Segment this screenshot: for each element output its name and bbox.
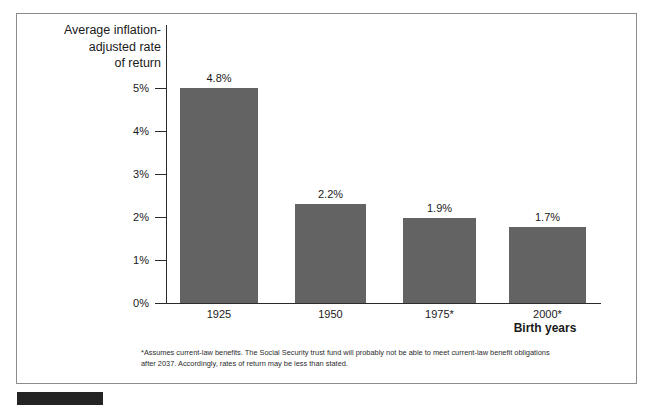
bar-value-2000: 1.7%: [509, 212, 586, 223]
y-tick-label-5: 5%: [95, 83, 149, 94]
y-tick-1: [155, 260, 166, 261]
bar-1975[interactable]: [403, 218, 476, 303]
bar-category-1975: 1975*: [403, 309, 476, 320]
y-tick-0: [155, 303, 166, 304]
bar-value-1950: 2.2%: [295, 189, 366, 200]
y-axis-line: [166, 25, 167, 304]
bar-value-1925: 4.8%: [180, 73, 258, 84]
x-axis-line: [166, 303, 601, 304]
y-tick-label-3: 3%: [95, 169, 149, 180]
bar-value-1975: 1.9%: [403, 203, 476, 214]
y-tick-label-2: 2%: [95, 212, 149, 223]
y-tick-2: [155, 217, 166, 218]
bar-category-2000: 2000*: [509, 309, 586, 320]
y-tick-label-1: 1%: [95, 255, 149, 266]
bar-category-1925: 1925: [180, 309, 258, 320]
chart-footnote: *Assumes current-law benefits. The Socia…: [141, 347, 611, 369]
y-tick-3: [155, 174, 166, 175]
bar-category-1950: 1950: [295, 309, 366, 320]
chart-y-axis-title: Average inflation- adjusted rate of retu…: [20, 22, 161, 72]
bar-1925[interactable]: [180, 88, 258, 303]
bottom-marker-bar: [17, 392, 103, 405]
y-tick-label-0: 0%: [95, 298, 149, 309]
bar-1950[interactable]: [295, 204, 366, 303]
y-tick-label-4: 4%: [95, 126, 149, 137]
chart-x-axis-title: Birth years: [489, 322, 601, 335]
bar-2000[interactable]: [509, 227, 586, 303]
y-tick-5: [155, 88, 166, 89]
y-tick-4: [155, 131, 166, 132]
